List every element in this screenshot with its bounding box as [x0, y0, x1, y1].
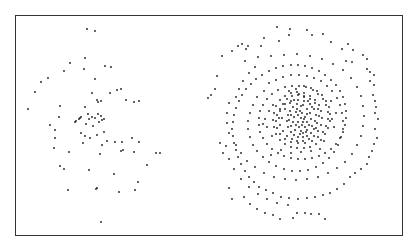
data-point [59, 165, 61, 167]
data-point [377, 118, 379, 120]
right-cluster-points [207, 26, 379, 220]
data-point [296, 140, 298, 142]
data-point [254, 66, 256, 68]
data-point [283, 155, 285, 157]
data-point [275, 67, 277, 69]
data-point [298, 93, 300, 95]
data-point [328, 106, 330, 108]
data-point [233, 168, 235, 170]
data-point [373, 74, 375, 76]
data-point [290, 131, 292, 133]
data-point [317, 176, 319, 178]
data-point [336, 188, 338, 190]
data-point [312, 89, 314, 91]
data-point [246, 160, 248, 162]
data-point [221, 55, 223, 57]
data-point [309, 55, 311, 57]
data-point [259, 110, 261, 112]
data-point [265, 189, 267, 191]
data-point [284, 95, 286, 97]
data-point [133, 151, 135, 153]
data-point [266, 198, 268, 200]
data-point [288, 90, 290, 92]
data-point [306, 108, 308, 110]
data-point [131, 137, 133, 139]
data-point [159, 152, 161, 154]
data-point [262, 137, 264, 139]
data-point [263, 90, 265, 92]
data-point [276, 202, 278, 204]
data-point [228, 102, 230, 104]
data-point [114, 141, 116, 143]
data-point [301, 112, 303, 114]
data-point [303, 85, 305, 87]
data-point [120, 88, 122, 90]
data-point [275, 105, 277, 107]
data-point [138, 100, 140, 102]
data-point [134, 189, 136, 191]
data-point [248, 176, 250, 178]
data-point [366, 163, 368, 165]
data-point [27, 108, 29, 110]
data-point [288, 119, 290, 121]
data-point [373, 143, 375, 145]
data-point [290, 64, 292, 66]
data-point [100, 115, 102, 117]
data-point [282, 76, 284, 78]
data-point [278, 117, 280, 119]
data-point [247, 128, 249, 130]
data-point [322, 98, 324, 100]
data-point [298, 74, 300, 76]
data-point [318, 70, 320, 72]
data-point [286, 135, 288, 137]
data-point [307, 169, 309, 171]
data-point [316, 90, 318, 92]
data-point [313, 77, 315, 79]
data-point [327, 127, 329, 129]
data-point [373, 84, 375, 86]
data-point [89, 137, 91, 139]
data-point [233, 142, 235, 144]
data-point [328, 157, 330, 159]
data-point [87, 113, 89, 115]
data-point [291, 95, 293, 97]
data-point [59, 105, 61, 107]
data-point [326, 85, 328, 87]
data-point [297, 198, 299, 200]
data-point [146, 164, 148, 166]
data-point [345, 60, 347, 62]
data-point [309, 146, 311, 148]
data-point [291, 85, 293, 87]
data-point [303, 92, 305, 94]
data-point [262, 104, 264, 106]
data-point [260, 45, 262, 47]
data-point [277, 152, 279, 154]
data-point [276, 127, 278, 129]
data-point [276, 114, 278, 116]
data-point [290, 146, 292, 148]
data-point [283, 54, 285, 56]
data-point [318, 213, 320, 215]
data-point [297, 142, 299, 144]
data-point [226, 122, 228, 124]
data-point [342, 120, 344, 122]
data-point [292, 121, 294, 123]
data-point [372, 94, 374, 96]
data-point [290, 141, 292, 143]
data-point [302, 132, 304, 134]
data-point [243, 196, 245, 198]
data-point [249, 112, 251, 114]
data-point [290, 157, 292, 159]
data-point [296, 212, 298, 214]
data-point [345, 110, 347, 112]
data-point [271, 148, 273, 150]
data-point [94, 117, 96, 119]
data-point [101, 144, 103, 146]
data-point [311, 34, 313, 36]
data-point [311, 140, 313, 142]
data-point [289, 28, 291, 30]
data-point [289, 102, 291, 104]
data-point [256, 208, 258, 210]
data-point [91, 116, 93, 118]
data-point [283, 168, 285, 170]
